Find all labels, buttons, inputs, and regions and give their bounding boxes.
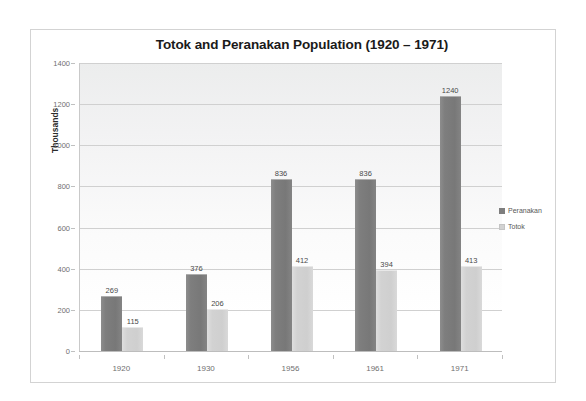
y-axis-tick-mark <box>71 310 75 311</box>
bar-totok-1956: 412 <box>292 266 313 351</box>
x-axis-tick-label: 1930 <box>197 364 215 373</box>
y-axis-tick-label: 1400 <box>53 59 70 68</box>
bar-group: 1240413 <box>440 63 482 351</box>
y-axis-tick-mark <box>71 186 75 187</box>
bar-peranakan-1971: 1240 <box>440 96 461 351</box>
y-axis-tick-label: 200 <box>57 305 70 314</box>
bar-value-label: 1240 <box>442 86 459 95</box>
legend-item-peranakan[interactable]: Peranakan <box>499 204 557 217</box>
x-axis-tick-mark <box>502 355 503 359</box>
x-axis-tick-label: 1956 <box>282 364 300 373</box>
y-axis-tick-label: 1000 <box>53 141 70 150</box>
y-axis-tick-label: 800 <box>57 182 70 191</box>
bar-peranakan-1930: 376 <box>186 274 207 351</box>
plot-area: 2691153762068364128363941240413 <box>79 63 502 351</box>
bar-value-label: 206 <box>211 299 224 308</box>
x-axis-line <box>79 351 502 352</box>
y-axis-tick-mark <box>71 63 75 64</box>
bar-value-label: 394 <box>380 260 393 269</box>
bar-series-container: 2691153762068364128363941240413 <box>80 63 502 351</box>
bar-peranakan-1961: 836 <box>355 179 376 351</box>
x-axis-tick-label: 1971 <box>451 364 469 373</box>
bar-peranakan-1920: 269 <box>101 296 122 351</box>
bar-value-label: 413 <box>465 256 478 265</box>
bar-group: 376206 <box>186 63 228 351</box>
legend-swatch-icon <box>499 208 505 214</box>
bar-group: 836412 <box>271 63 313 351</box>
y-axis-tick-labels: 0200400600800100012001400 <box>31 63 75 351</box>
x-axis-tick-mark <box>417 355 418 359</box>
y-axis-tick-mark <box>71 351 75 352</box>
chart-legend: PeranakanTotok <box>499 204 557 236</box>
y-axis-tick-mark <box>71 145 75 146</box>
bar-totok-1920: 115 <box>122 327 143 351</box>
y-axis-tick-label: 0 <box>66 347 70 356</box>
bar-value-label: 412 <box>296 256 309 265</box>
chart-title: Totok and Peranakan Population (1920 – 1… <box>31 37 555 52</box>
x-axis-tick-mark <box>333 355 334 359</box>
bar-value-label: 836 <box>359 169 372 178</box>
x-axis-tick-label: 1920 <box>112 364 130 373</box>
y-axis-tick-label: 1200 <box>53 100 70 109</box>
x-axis-tick-labels: 19201930195619611971 <box>79 355 502 375</box>
bar-value-label: 115 <box>127 317 139 326</box>
bar-totok-1971: 413 <box>461 266 482 351</box>
bar-value-label: 836 <box>275 169 288 178</box>
y-axis-tick-mark <box>71 269 75 270</box>
x-axis-tick-mark <box>164 355 165 359</box>
bar-group: 269115 <box>101 63 143 351</box>
chart-frame: Totok and Peranakan Population (1920 – 1… <box>30 29 556 383</box>
bar-value-label: 376 <box>190 264 203 273</box>
bar-group: 836394 <box>355 63 397 351</box>
legend-item-totok[interactable]: Totok <box>499 220 557 233</box>
legend-item-label: Peranakan <box>508 207 542 214</box>
scanned-page: Totok and Peranakan Population (1920 – 1… <box>0 0 586 401</box>
bar-totok-1961: 394 <box>376 270 397 351</box>
legend-item-label: Totok <box>508 223 525 230</box>
bar-peranakan-1956: 836 <box>271 179 292 351</box>
bar-totok-1930: 206 <box>207 309 228 351</box>
bar-value-label: 269 <box>106 286 119 295</box>
y-axis-tick-label: 400 <box>57 264 70 273</box>
y-axis-tick-mark <box>71 228 75 229</box>
x-axis-tick-mark <box>248 355 249 359</box>
legend-swatch-icon <box>499 224 505 230</box>
y-axis-tick-label: 600 <box>57 223 70 232</box>
x-axis-tick-mark <box>79 355 80 359</box>
y-axis-tick-mark <box>71 104 75 105</box>
x-axis-tick-label: 1961 <box>366 364 384 373</box>
